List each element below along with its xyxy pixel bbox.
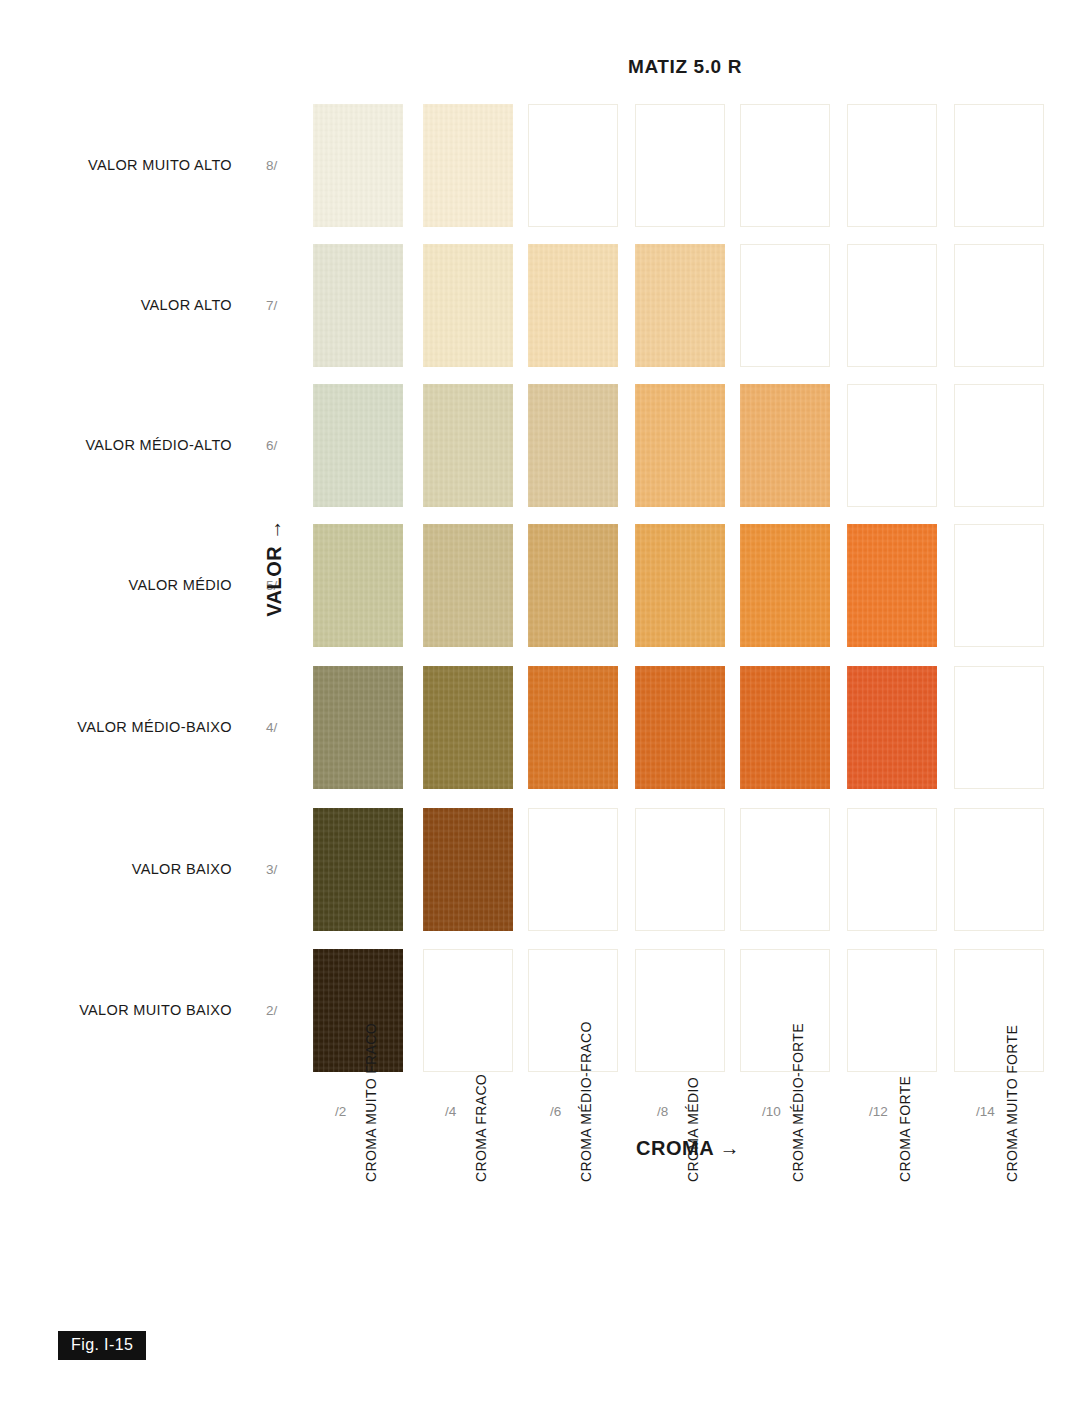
swatch-grain-texture [635, 524, 725, 647]
color-swatch[interactable] [740, 244, 830, 367]
swatch-grain-texture [313, 524, 403, 647]
color-swatch[interactable] [954, 808, 1044, 931]
swatch-grain-texture [847, 666, 937, 789]
color-swatch[interactable] [740, 666, 830, 789]
color-swatch[interactable] [423, 949, 513, 1072]
chroma-column-label: CROMA FORTE [897, 1012, 919, 1182]
color-swatch[interactable] [528, 949, 618, 1072]
color-swatch[interactable] [528, 244, 618, 367]
value-row-label: VALOR MUITO ALTO [0, 157, 232, 173]
swatch-grain-texture [313, 666, 403, 789]
color-swatch[interactable] [740, 524, 830, 647]
swatch-row [313, 104, 1063, 227]
color-swatch[interactable] [423, 104, 513, 227]
value-row-tick: 8/ [266, 158, 296, 173]
swatch-grain-texture [635, 384, 725, 507]
swatch-grain-texture [423, 244, 513, 367]
color-swatch[interactable] [313, 949, 403, 1072]
color-swatch[interactable] [635, 666, 725, 789]
chroma-column-label: CROMA MÉDIO-FRACO [578, 1012, 600, 1182]
swatch-grain-texture [423, 104, 513, 227]
color-swatch[interactable] [528, 384, 618, 507]
color-swatch[interactable] [847, 244, 937, 367]
value-row-label: VALOR MÉDIO-BAIXO [0, 719, 232, 735]
color-swatch[interactable] [635, 949, 725, 1072]
page-title: MATIZ 5.0 R [0, 56, 1080, 78]
color-swatch[interactable] [847, 949, 937, 1072]
color-swatch[interactable] [635, 104, 725, 227]
value-row-label: VALOR BAIXO [0, 861, 232, 877]
color-swatch[interactable] [528, 104, 618, 227]
swatch-row [313, 244, 1063, 367]
color-swatch[interactable] [635, 384, 725, 507]
color-swatch[interactable] [423, 808, 513, 931]
chroma-column-label: CROMA MUITO FRACO [363, 1012, 385, 1182]
color-swatch[interactable] [954, 666, 1044, 789]
color-swatch[interactable] [954, 244, 1044, 367]
color-swatch[interactable] [635, 244, 725, 367]
chroma-column-label: CROMA MUITO FORTE [1004, 1012, 1026, 1182]
swatch-grain-texture [740, 524, 830, 647]
color-swatch[interactable] [954, 104, 1044, 227]
value-row-tick: 2/ [266, 1003, 296, 1018]
swatch-grain-texture [847, 524, 937, 647]
color-swatch[interactable] [740, 104, 830, 227]
color-swatch[interactable] [313, 384, 403, 507]
color-swatch[interactable] [313, 666, 403, 789]
color-swatch[interactable] [740, 949, 830, 1072]
color-swatch[interactable] [740, 384, 830, 507]
color-swatch[interactable] [847, 524, 937, 647]
swatch-grain-texture [528, 244, 618, 367]
color-swatch[interactable] [847, 384, 937, 507]
color-swatch[interactable] [847, 104, 937, 227]
chroma-column-label: CROMA MÉDIO [685, 1012, 707, 1182]
swatch-grain-texture [740, 666, 830, 789]
color-swatch[interactable] [635, 524, 725, 647]
swatch-row [313, 666, 1063, 789]
value-row-label: VALOR ALTO [0, 297, 232, 313]
color-swatch[interactable] [954, 524, 1044, 647]
value-row-tick: 7/ [266, 298, 296, 313]
swatch-grain-texture [423, 524, 513, 647]
swatch-grain-texture [423, 384, 513, 507]
chroma-column-label: CROMA MÉDIO-FORTE [790, 1012, 812, 1182]
color-swatch[interactable] [313, 808, 403, 931]
value-row-label: VALOR MUITO BAIXO [0, 1002, 232, 1018]
color-swatch[interactable] [954, 384, 1044, 507]
swatch-grain-texture [423, 666, 513, 789]
color-swatch[interactable] [313, 244, 403, 367]
swatch-grain-texture [528, 384, 618, 507]
color-swatch[interactable] [313, 524, 403, 647]
value-row-tick: 6/ [266, 438, 296, 453]
color-swatch[interactable] [528, 808, 618, 931]
color-swatch[interactable] [423, 384, 513, 507]
swatch-grain-texture [313, 808, 403, 931]
color-swatch[interactable] [423, 666, 513, 789]
color-swatch[interactable] [423, 244, 513, 367]
swatch-grain-texture [313, 104, 403, 227]
swatch-row [313, 808, 1063, 931]
value-row-tick: 4/ [266, 720, 296, 735]
color-swatch[interactable] [423, 524, 513, 647]
swatch-grain-texture [635, 666, 725, 789]
color-swatch[interactable] [635, 808, 725, 931]
swatch-grain-texture [528, 666, 618, 789]
color-swatch[interactable] [847, 808, 937, 931]
color-swatch[interactable] [847, 666, 937, 789]
value-axis-label: VALOR → [263, 498, 289, 638]
color-swatch[interactable] [313, 104, 403, 227]
color-swatch[interactable] [528, 666, 618, 789]
color-swatch-grid [313, 104, 1063, 1094]
color-swatch[interactable] [740, 808, 830, 931]
value-row-tick: 3/ [266, 862, 296, 877]
swatch-row [313, 384, 1063, 507]
swatch-grain-texture [423, 808, 513, 931]
swatch-grain-texture [635, 244, 725, 367]
color-swatch[interactable] [954, 949, 1044, 1072]
chroma-column-label: CROMA FRACO [473, 1012, 495, 1182]
swatch-grain-texture [528, 524, 618, 647]
swatch-grain-texture [740, 384, 830, 507]
color-swatch[interactable] [528, 524, 618, 647]
swatch-grain-texture [313, 384, 403, 507]
value-row-label: VALOR MÉDIO [0, 577, 232, 593]
